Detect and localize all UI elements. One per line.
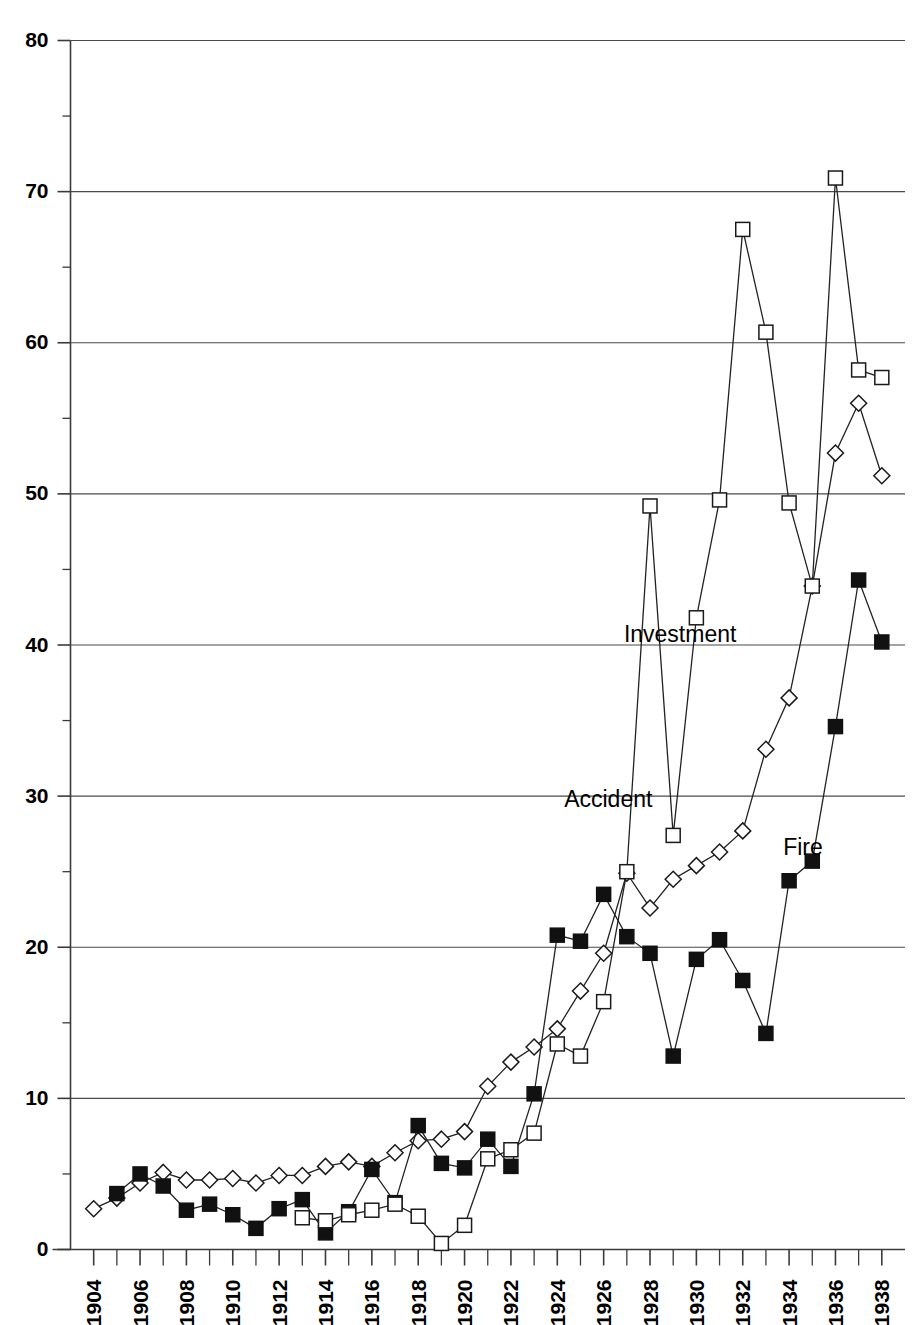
x-tick-label: 1926 [592,1280,615,1325]
data-point-investment-1937 [852,363,866,377]
annotation-investment: Investment [624,621,737,647]
data-point-investment-1931 [713,493,727,507]
x-tick-label: 1908 [175,1279,198,1325]
x-tick-label: 1934 [778,1279,801,1325]
data-point-investment-1916 [365,1203,379,1217]
x-tick-label: 1930 [685,1280,708,1325]
data-point-accident-1930 [688,858,704,874]
y-tick-label: 70 [25,179,48,202]
data-point-accident-1913 [294,1167,310,1183]
data-point-investment-1929 [666,828,680,842]
x-tick-label: 1904 [82,1279,105,1325]
series-investment [295,171,889,1250]
data-point-fire-1907 [156,1179,170,1193]
data-point-fire-1913 [295,1193,309,1207]
data-point-fire-1922 [504,1159,518,1173]
data-point-investment-1926 [597,995,611,1009]
data-point-fire-1910 [226,1208,240,1222]
data-point-investment-1915 [342,1208,356,1222]
data-point-accident-1934 [781,690,797,706]
y-tick-label: 20 [25,935,48,958]
data-point-accident-1909 [202,1172,218,1188]
data-point-investment-1920 [458,1218,472,1232]
data-point-investment-1936 [828,171,842,185]
y-tick-label: 30 [25,784,48,807]
x-tick-label: 1920 [453,1280,476,1325]
data-point-accident-1915 [341,1154,357,1170]
series-fire [110,573,889,1240]
data-point-accident-1907 [155,1164,171,1180]
data-point-accident-1937 [851,395,867,411]
data-point-investment-1935 [805,579,819,593]
data-point-fire-1911 [249,1221,263,1235]
data-point-fire-1908 [179,1203,193,1217]
data-point-accident-1917 [387,1145,403,1161]
y-axis: 01020304050607080 [25,28,70,1260]
y-tick-label: 10 [25,1086,48,1109]
x-tick-label: 1918 [407,1279,430,1325]
data-point-fire-1906 [133,1167,147,1181]
data-point-fire-1931 [713,933,727,947]
data-point-accident-1933 [758,741,774,757]
data-point-fire-1920 [458,1161,472,1175]
x-tick-label: 1914 [314,1279,337,1325]
series-annotations: InvestmentAccidentFire [564,621,823,860]
data-point-fire-1919 [434,1156,448,1170]
data-point-fire-1936 [828,720,842,734]
series-accident [86,395,890,1216]
data-point-investment-1913 [295,1211,309,1225]
data-point-fire-1927 [620,930,634,944]
x-tick-label: 1932 [731,1280,754,1325]
data-point-accident-1912 [271,1167,287,1183]
data-point-investment-1922 [504,1143,518,1157]
data-point-fire-1923 [527,1087,541,1101]
data-series-group [86,171,890,1250]
data-point-investment-1914 [318,1214,332,1228]
line-chart: 01020304050607080 1904190619081910191219… [0,0,919,1325]
x-axis: 1904190619081910191219141916191819201922… [53,1250,906,1325]
annotation-accident: Accident [564,786,653,812]
data-point-investment-1933 [759,325,773,339]
data-point-investment-1923 [527,1126,541,1140]
data-point-accident-1920 [457,1124,473,1140]
series-line-investment [302,178,882,1243]
data-point-accident-1936 [827,445,843,461]
series-line-fire [117,580,882,1233]
y-tick-label: 40 [25,633,48,656]
data-point-accident-1938 [874,468,890,484]
data-point-investment-1918 [411,1209,425,1223]
x-tick-label: 1938 [870,1279,893,1325]
data-point-fire-1938 [875,635,889,649]
data-point-fire-1918 [411,1119,425,1133]
annotation-fire: Fire [783,834,823,860]
data-point-fire-1921 [481,1132,495,1146]
x-tick-label: 1924 [546,1279,569,1325]
data-point-fire-1937 [852,573,866,587]
x-tick-label: 1922 [499,1280,522,1325]
chart-container: 01020304050607080 1904190619081910191219… [0,0,919,1325]
data-point-investment-1938 [875,371,889,385]
data-point-investment-1917 [388,1197,402,1211]
y-tick-label: 0 [37,1237,49,1260]
data-point-investment-1919 [434,1236,448,1250]
data-point-fire-1912 [272,1202,286,1216]
data-point-fire-1916 [365,1162,379,1176]
data-point-fire-1928 [643,946,657,960]
data-point-investment-1925 [573,1049,587,1063]
data-point-accident-1925 [572,983,588,999]
data-point-accident-1924 [549,1021,565,1037]
data-point-fire-1926 [597,887,611,901]
data-point-accident-1929 [665,871,681,887]
data-point-fire-1905 [110,1187,124,1201]
data-point-accident-1911 [248,1175,264,1191]
data-point-fire-1909 [203,1197,217,1211]
data-point-fire-1934 [782,874,796,888]
y-tick-label: 80 [25,28,48,51]
data-point-fire-1933 [759,1026,773,1040]
x-tick-label: 1916 [360,1280,383,1325]
data-point-investment-1932 [736,222,750,236]
data-point-fire-1929 [666,1049,680,1063]
data-point-investment-1934 [782,496,796,510]
data-point-accident-1919 [433,1131,449,1147]
data-point-fire-1925 [573,934,587,948]
